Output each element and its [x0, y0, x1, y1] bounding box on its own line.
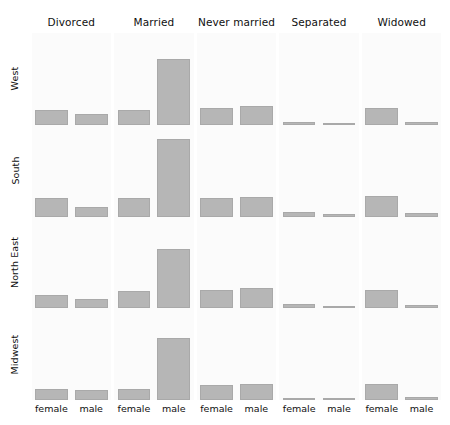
bar-north-east-never-married-male[interactable]: [240, 288, 273, 308]
bar-south-married-female[interactable]: [118, 198, 151, 216]
bar-west-married-male[interactable]: [157, 59, 190, 125]
panel-plot-area: [32, 33, 112, 125]
panel-midwest-divorced[interactable]: [32, 308, 112, 400]
bar-south-divorced-male[interactable]: [75, 207, 108, 216]
panel-west-married[interactable]: [114, 33, 194, 125]
column-strip-never-married: Never married: [195, 14, 278, 30]
bar-north-east-widowed-female[interactable]: [365, 290, 398, 308]
bar-slot-male: [236, 217, 276, 309]
bar-slot-female: [197, 308, 237, 400]
panel-plot-area: [114, 33, 194, 125]
bar-slot-male: [402, 125, 442, 217]
panel-midwest-never-married[interactable]: [197, 308, 277, 400]
bar-midwest-never-married-male[interactable]: [240, 384, 273, 400]
column-strip-separated: Separated: [278, 14, 361, 30]
bar-slot-male: [236, 308, 276, 400]
panel-row-north-east: [30, 217, 443, 309]
column-strip-label: Widowed: [377, 16, 426, 28]
bar-west-never-married-female[interactable]: [200, 108, 233, 125]
bar-midwest-divorced-female[interactable]: [35, 389, 68, 400]
x-axis-tick-married-female: female: [114, 403, 154, 421]
bar-north-east-divorced-female[interactable]: [35, 295, 68, 308]
x-axis-tick-married-male: male: [154, 403, 194, 421]
bar-slot-female: [114, 33, 154, 125]
bar-south-divorced-female[interactable]: [35, 198, 68, 216]
panel-plot-area: [197, 308, 277, 400]
panel-north-east-never-married[interactable]: [197, 217, 277, 309]
panel-south-married[interactable]: [114, 125, 194, 217]
bar-slot-female: [362, 308, 402, 400]
bar-south-never-married-male[interactable]: [240, 197, 273, 216]
row-strip-header-column: West South North East Midwest: [2, 33, 28, 400]
panel-plot-area: [32, 308, 112, 400]
x-axis-panel-divorced: femalemale: [32, 403, 112, 421]
panel-plot-area: [362, 125, 442, 217]
panel-west-divorced[interactable]: [32, 33, 112, 125]
bar-slot-female: [32, 125, 72, 217]
bar-west-married-female[interactable]: [118, 110, 151, 125]
bar-slot-female: [197, 33, 237, 125]
panel-north-east-married[interactable]: [114, 217, 194, 309]
bar-slot-female: [197, 125, 237, 217]
panel-plot-area: [362, 308, 442, 400]
bar-south-married-male[interactable]: [157, 139, 190, 217]
panel-plot-area: [32, 217, 112, 309]
column-strip-label: Separated: [292, 16, 347, 28]
bar-south-never-married-female[interactable]: [200, 198, 233, 216]
panel-south-divorced[interactable]: [32, 125, 112, 217]
trellis-barchart: Divorced Married Never married Separated…: [0, 0, 450, 425]
panel-north-east-widowed[interactable]: [362, 217, 442, 309]
panel-grid: [30, 33, 443, 400]
bar-midwest-divorced-male[interactable]: [75, 390, 108, 400]
panel-row-south: [30, 125, 443, 217]
panel-west-never-married[interactable]: [197, 33, 277, 125]
panel-south-widowed[interactable]: [362, 125, 442, 217]
row-strip-label: North East: [10, 237, 21, 288]
bar-midwest-married-female[interactable]: [118, 389, 151, 400]
panel-plot-area: [32, 125, 112, 217]
bar-slot-female: [114, 217, 154, 309]
panel-plot-area: [279, 308, 359, 400]
bar-slot-male: [236, 125, 276, 217]
bar-north-east-married-male[interactable]: [157, 249, 190, 309]
bar-slot-female: [279, 308, 319, 400]
bar-midwest-separated-male[interactable]: [323, 398, 356, 400]
bar-north-east-married-female[interactable]: [118, 291, 151, 308]
panel-north-east-separated[interactable]: [279, 217, 359, 309]
panel-west-widowed[interactable]: [362, 33, 442, 125]
bar-midwest-widowed-female[interactable]: [365, 384, 398, 400]
panel-south-never-married[interactable]: [197, 125, 277, 217]
bar-midwest-separated-female[interactable]: [283, 398, 316, 400]
panel-midwest-married[interactable]: [114, 308, 194, 400]
bar-slot-male: [71, 217, 111, 309]
panel-north-east-divorced[interactable]: [32, 217, 112, 309]
bar-west-never-married-male[interactable]: [240, 106, 273, 124]
bar-west-divorced-male[interactable]: [75, 114, 108, 125]
bar-south-widowed-female[interactable]: [365, 196, 398, 216]
bar-west-divorced-female[interactable]: [35, 110, 68, 125]
x-axis-tick-never-married-female: female: [197, 403, 237, 421]
bar-midwest-married-male[interactable]: [157, 338, 190, 400]
panel-midwest-widowed[interactable]: [362, 308, 442, 400]
bar-midwest-widowed-male[interactable]: [405, 397, 438, 400]
bar-slot-female: [32, 33, 72, 125]
bar-west-widowed-female[interactable]: [365, 108, 398, 125]
panel-plot-area: [362, 33, 442, 125]
x-axis-tick-never-married-male: male: [236, 403, 276, 421]
panel-west-separated[interactable]: [279, 33, 359, 125]
bar-north-east-divorced-male[interactable]: [75, 299, 108, 308]
bar-slot-male: [154, 217, 194, 309]
x-axis-panel-widowed: femalemale: [362, 403, 442, 421]
row-strip-west: West: [2, 33, 28, 125]
bar-slot-male: [319, 217, 359, 309]
bar-slot-female: [362, 33, 402, 125]
panel-south-separated[interactable]: [279, 125, 359, 217]
panel-plot-area: [362, 217, 442, 309]
bar-midwest-never-married-female[interactable]: [200, 385, 233, 400]
bar-north-east-never-married-female[interactable]: [200, 290, 233, 308]
column-strip-label: Married: [134, 16, 175, 28]
bar-slot-female: [279, 33, 319, 125]
panel-midwest-separated[interactable]: [279, 308, 359, 400]
panel-plot-area: [279, 125, 359, 217]
panel-plot-area: [114, 125, 194, 217]
